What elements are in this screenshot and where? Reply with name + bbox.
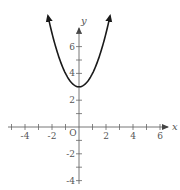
x-tick-label: -4 (21, 131, 30, 141)
axes (8, 28, 168, 184)
x-tick-label: 2 (103, 131, 109, 141)
x-tick-label: 4 (130, 131, 136, 141)
y-tick-label: 6 (69, 42, 75, 52)
y-tick-label: 4 (69, 68, 75, 78)
parabola-right-branch (79, 16, 110, 87)
parabola-chart: -4-2246-4-2246Oxy (0, 0, 180, 190)
x-axis-label: x (172, 121, 178, 132)
ticks (12, 33, 161, 190)
y-tick-label: -4 (66, 176, 75, 186)
y-axis-label: y (80, 15, 87, 26)
y-tick-label: -2 (66, 149, 75, 159)
tick-labels: -4-2246-4-2246Oxy (21, 15, 178, 186)
x-tick-label: 6 (157, 131, 163, 141)
x-tick-label: -2 (48, 131, 57, 141)
origin-label: O (69, 128, 76, 138)
y-tick-label: 2 (69, 95, 75, 105)
